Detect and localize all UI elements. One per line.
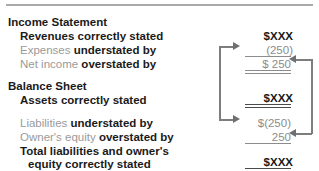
top-divider-rule <box>6 4 313 6</box>
revenues-line-label: Revenues correctly stated <box>20 30 163 43</box>
right-connector-bottom-horizontal <box>296 133 312 135</box>
right-connector-vertical <box>311 59 313 134</box>
net-income-underline-2 <box>245 73 291 74</box>
expenses-label-muted: Expenses <box>20 44 74 56</box>
liabilities-label-muted: Liabilities <box>20 117 71 129</box>
owners-equity-label-bold: overstated by <box>99 131 174 143</box>
right-connector-top-horizontal <box>296 59 312 61</box>
left-connector-top-arrow-icon <box>233 42 240 50</box>
owners-equity-underline <box>245 143 291 144</box>
assets-underline-1 <box>245 104 291 105</box>
assets-line-label: Assets correctly stated <box>20 94 147 107</box>
net-income-top-rule <box>245 56 291 57</box>
total-underline <box>245 168 291 169</box>
revenues-amount: $XXX <box>239 30 293 43</box>
left-connector-top-horizontal <box>219 46 234 48</box>
net-income-label-bold: overstated by <box>81 58 156 70</box>
left-connector-bottom-arrow-icon <box>233 115 240 123</box>
left-connector-vertical <box>219 46 221 120</box>
assets-underline-2 <box>245 107 291 108</box>
total-liabilities-equity-label-line1: Total liabilities and owner's <box>20 145 169 158</box>
balance-sheet-heading: Balance Sheet <box>8 80 87 93</box>
right-connector-top-arrow-icon <box>289 55 296 63</box>
net-income-label-muted: Net income <box>20 58 81 70</box>
liabilities-amount: $(250) <box>237 117 291 130</box>
right-connector-bottom-arrow-icon <box>289 129 296 137</box>
liabilities-label-bold: understated by <box>71 117 153 129</box>
net-income-line-label: Net income overstated by <box>20 58 156 71</box>
expenses-line-label: Expenses understated by <box>20 44 156 57</box>
owners-equity-label-muted: Owner's equity <box>20 131 99 143</box>
left-connector-bottom-horizontal <box>219 119 234 121</box>
liabilities-line-label: Liabilities understated by <box>20 117 153 130</box>
income-statement-heading: Income Statement <box>8 16 107 29</box>
owners-equity-line-label: Owner's equity overstated by <box>20 131 174 144</box>
error-effects-figure: Income Statement Revenues correctly stat… <box>0 0 319 171</box>
total-liabilities-equity-label-line2: equity correctly stated <box>28 158 151 171</box>
net-income-underline-1 <box>245 70 291 71</box>
expenses-label-bold: understated by <box>74 44 156 56</box>
